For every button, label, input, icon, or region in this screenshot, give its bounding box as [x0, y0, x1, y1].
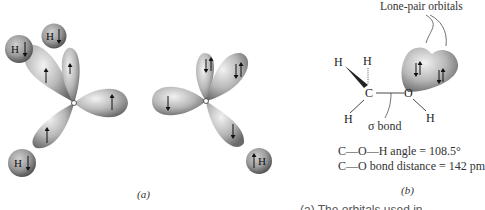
co-distance-text: C—O bond distance = 142 pm [338, 159, 485, 174]
lone-pair-label: Lone-pair orbitals [380, 0, 463, 12]
svg-text:H: H [334, 55, 343, 69]
svg-text:H: H [258, 155, 266, 167]
svg-text:H: H [11, 43, 19, 55]
panel-b-caption: (b) [401, 184, 414, 196]
svg-text:H: H [344, 112, 353, 126]
lobe-left [152, 87, 206, 116]
svg-text:O: O [404, 86, 413, 100]
lobe-lower-right [206, 101, 244, 147]
hydrogen-atoms: H H H H [5, 24, 272, 178]
lobe-right [74, 89, 128, 118]
svg-text:H: H [426, 111, 435, 125]
svg-text:H: H [46, 30, 54, 42]
oxygen-sp3-orbitals [152, 53, 248, 147]
carbon-sp3-orbitals [23, 42, 128, 148]
lobe-lower-left [32, 103, 74, 148]
svg-text:C: C [365, 86, 373, 100]
caption-continuation: (a) The orbitals used in [300, 200, 423, 210]
svg-text:H: H [363, 54, 372, 68]
coh-angle-text: C—O—H angle = 108.5° [338, 144, 461, 159]
svg-text:H: H [14, 157, 22, 169]
methanol-structure: H H C O H H [334, 15, 458, 126]
panel-a-caption: (a) [137, 188, 150, 200]
sigma-bond-label: σ bond [368, 119, 401, 134]
